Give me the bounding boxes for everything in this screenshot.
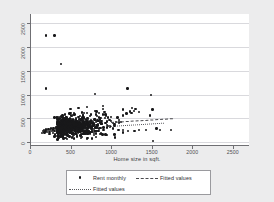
legend-entry-fitted-values-dotted: Fitted values xyxy=(67,183,125,194)
scatter-point xyxy=(90,127,92,129)
x-axis-tick-label: 500 xyxy=(66,149,75,155)
scatter-point xyxy=(64,117,66,119)
scatter-point xyxy=(134,108,136,110)
scatter-point xyxy=(73,137,75,139)
x-axis-tick-label: 2500 xyxy=(227,149,239,155)
scatter-point xyxy=(81,111,83,113)
scatter-point xyxy=(53,135,55,137)
scatter-point xyxy=(95,113,97,115)
scatter-point xyxy=(45,34,47,36)
scatter-point xyxy=(112,127,114,129)
scatter-point xyxy=(131,107,133,109)
scatter-point xyxy=(94,93,96,95)
scatter-point xyxy=(150,94,152,96)
scatter-point xyxy=(62,137,64,139)
scatter-point xyxy=(151,108,153,110)
scatter-point xyxy=(86,137,88,139)
legend-entry-rent-monthly: Rent monthly xyxy=(67,172,126,183)
scatter-point xyxy=(114,136,116,138)
scatter-point xyxy=(86,106,88,108)
scatter-point xyxy=(78,123,80,125)
scatter-point xyxy=(100,132,102,134)
dotted-line-marker-icon xyxy=(67,184,93,193)
gridline xyxy=(30,23,249,24)
scatter-point xyxy=(149,114,151,116)
legend-label: Fitted values xyxy=(93,186,125,192)
x-axis-title: Home size in sqft. xyxy=(0,156,274,162)
legend-label: Rent monthly xyxy=(93,175,126,181)
scatter-point xyxy=(122,131,124,133)
scatter-point xyxy=(91,129,93,131)
scatter-point xyxy=(81,133,83,135)
scatter-point xyxy=(80,137,82,139)
plot-area xyxy=(30,14,249,145)
scatter-point xyxy=(66,134,68,136)
scatter-point xyxy=(48,133,50,135)
scatter-point xyxy=(77,107,79,109)
y-axis-tick xyxy=(27,23,30,24)
x-axis-tick-label: 1000 xyxy=(105,149,117,155)
scatter-point xyxy=(117,129,119,131)
scatter-point xyxy=(122,108,124,110)
scatter-point xyxy=(102,108,104,110)
dashed-line-marker-icon xyxy=(134,173,160,182)
scatter-point xyxy=(86,117,88,119)
gridline xyxy=(30,95,249,96)
scatter-point xyxy=(91,137,93,139)
gridline xyxy=(30,142,249,143)
x-axis-tick-label: 2000 xyxy=(186,149,198,155)
scatter-point xyxy=(159,129,161,131)
scatter-point xyxy=(82,120,84,122)
scatter-point xyxy=(104,113,106,115)
scatter-point xyxy=(45,87,47,89)
plot-background xyxy=(30,14,249,145)
x-axis-tick-label: 0 xyxy=(29,149,32,155)
filled-circle-marker-icon xyxy=(67,173,93,182)
x-axis-line xyxy=(30,145,249,146)
scatter-point xyxy=(155,127,157,129)
y-axis-tick xyxy=(27,95,30,96)
y-axis-tick xyxy=(27,71,30,72)
scatter-point xyxy=(130,112,132,114)
gridline xyxy=(30,47,249,48)
gridline xyxy=(30,71,249,72)
scatter-point xyxy=(170,129,172,131)
scatter-point xyxy=(98,127,100,129)
scatter-point xyxy=(69,126,71,128)
scatter-point xyxy=(75,133,77,135)
scatter-point xyxy=(66,138,68,140)
scatter-point xyxy=(59,135,61,137)
scatter-point xyxy=(102,126,104,128)
scatter-point xyxy=(76,135,78,137)
scatter-point xyxy=(94,130,96,132)
x-axis-tick-label: 1500 xyxy=(146,149,158,155)
scatter-point xyxy=(95,136,97,138)
scatter-point xyxy=(53,34,55,36)
scatter-point xyxy=(83,112,85,114)
scatter-point xyxy=(113,133,115,135)
scatter-point xyxy=(108,119,110,121)
y-axis-tick xyxy=(27,118,30,119)
scatter-point xyxy=(98,112,100,114)
scatter-point xyxy=(60,63,62,65)
scatter-point xyxy=(43,131,45,133)
scatter-point xyxy=(87,123,89,125)
scatter-point xyxy=(138,111,140,113)
scatter-point xyxy=(75,120,77,122)
legend-row: Rent monthly Fitted values xyxy=(67,172,210,183)
scatter-point xyxy=(126,87,128,89)
legend-entry-fitted-values-dashed: Fitted values xyxy=(134,172,192,183)
chart-legend: Rent monthly Fitted values Fitted values xyxy=(66,170,211,195)
scatter-point xyxy=(116,116,118,118)
scatter-point xyxy=(86,112,88,114)
legend-row: Fitted values xyxy=(67,183,210,194)
scatter-point xyxy=(125,112,127,114)
scatter-point xyxy=(107,116,109,118)
scatter-point xyxy=(127,130,129,132)
scatter-point xyxy=(104,122,106,124)
y-axis-tick xyxy=(27,142,30,143)
scatter-point xyxy=(56,131,58,133)
y-axis-line xyxy=(30,14,31,146)
scatter-point xyxy=(100,122,102,124)
scatter-point xyxy=(145,129,147,131)
